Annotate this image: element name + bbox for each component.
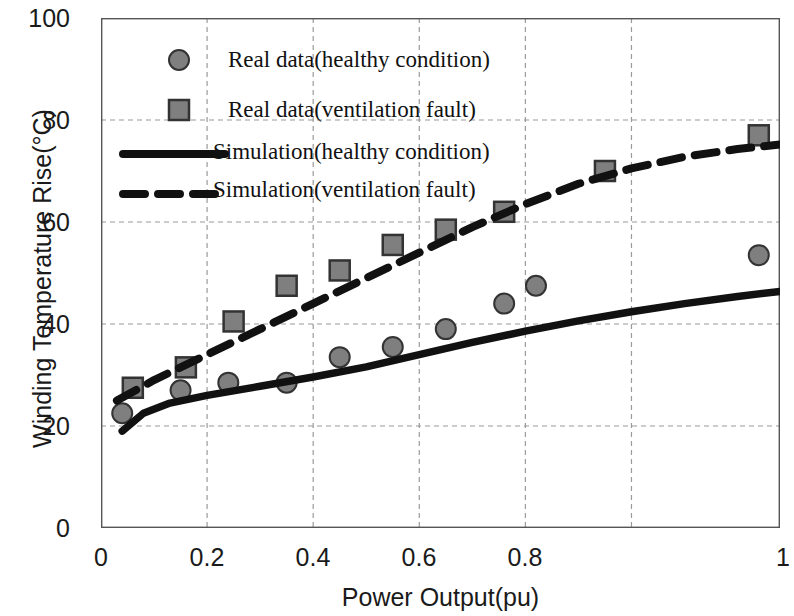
series-line-simulation-healthy: [122, 291, 780, 431]
y-tick-label-60: 60: [0, 208, 70, 237]
data-point-fault: [383, 235, 403, 255]
plot-area: [101, 18, 780, 528]
legend-label-sim-healthy: Simulation(healthy condition): [213, 139, 490, 165]
plot-canvas: [101, 18, 780, 528]
data-point-healthy: [494, 294, 514, 314]
x-tick-label-1: 1: [748, 543, 794, 572]
y-tick-label-80: 80: [0, 106, 70, 135]
x-tick-label-04: 0.4: [278, 543, 348, 572]
x-axis-title: Power Output(pu): [101, 583, 780, 612]
x-tick-label-08: 0.8: [490, 543, 560, 572]
data-point-healthy: [112, 403, 132, 423]
y-tick-label-20: 20: [0, 412, 70, 441]
legend-symbol-square-marker: [169, 100, 189, 120]
x-tick-label-02: 0.2: [172, 543, 242, 572]
x-tick-label-0: 0: [66, 543, 136, 572]
y-tick-label-0: 0: [0, 514, 70, 543]
data-point-healthy: [330, 347, 350, 367]
legend-label-real-fault: Real data(ventilation fault): [228, 97, 476, 123]
data-point-healthy: [383, 337, 403, 357]
data-point-healthy: [749, 245, 769, 265]
data-point-healthy: [436, 319, 456, 339]
data-point-healthy: [526, 276, 546, 296]
y-tick-label-100: 100: [0, 4, 70, 33]
data-point-fault: [224, 311, 244, 331]
y-tick-label-40: 40: [0, 310, 70, 339]
data-point-fault: [277, 276, 297, 296]
legend-label-sim-fault: Simulation(ventilation fault): [213, 177, 476, 203]
plot-frame: [102, 19, 780, 528]
x-tick-label-06: 0.6: [384, 543, 454, 572]
legend-label-real-healthy: Real data(healthy condition): [228, 47, 490, 73]
legend-symbol-circle-marker: [169, 50, 189, 70]
data-point-fault: [330, 260, 350, 280]
